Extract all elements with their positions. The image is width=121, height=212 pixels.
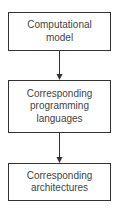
arrow-n1-to-n2 (57, 51, 63, 80)
node-text-line: Corresponding (27, 88, 93, 101)
node-text-line: Corresponding (27, 170, 93, 183)
node-text-line: programming (30, 100, 89, 113)
node-text-line: architectures (31, 182, 88, 195)
node-architectures: Corresponding architectures (8, 163, 111, 201)
node-computational-model: Computational model (8, 12, 111, 51)
node-text-line: languages (36, 113, 82, 126)
node-text-line: model (46, 32, 73, 45)
node-programming-languages: Corresponding programming languages (8, 80, 111, 133)
node-text-line: Computational (27, 19, 91, 32)
arrow-n2-to-n3 (57, 133, 63, 163)
